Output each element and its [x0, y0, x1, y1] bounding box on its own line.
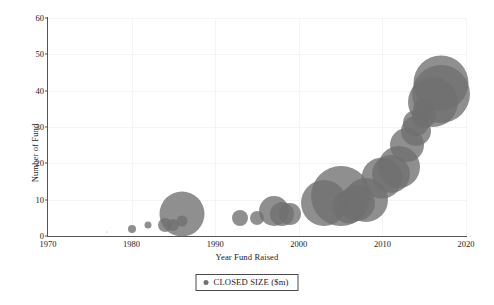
gridline-horizontal — [48, 18, 466, 19]
y-tick-mark — [45, 54, 48, 55]
bubble-data-point — [128, 225, 136, 233]
y-tick-label: 40 — [36, 86, 45, 95]
gridline-vertical — [466, 18, 467, 236]
y-tick-mark — [45, 18, 48, 19]
bubble-data-point — [159, 192, 204, 237]
x-tick-label: 2020 — [458, 240, 475, 249]
gridline-vertical — [215, 18, 216, 236]
bubble-data-point — [145, 222, 152, 229]
gridline-horizontal — [48, 91, 466, 92]
y-tick-mark — [45, 236, 48, 237]
y-tick-mark — [45, 199, 48, 200]
legend: CLOSED SIZE ($m) — [196, 274, 299, 291]
gridline-horizontal — [48, 200, 466, 201]
x-tick-label: 1970 — [40, 240, 57, 249]
y-tick-mark — [45, 90, 48, 91]
bubble-chart: Number of Fund 0102030405060197019801990… — [0, 0, 494, 305]
gridline-vertical — [299, 18, 300, 236]
x-tick-label: 1980 — [123, 240, 140, 249]
y-tick-label: 20 — [36, 159, 45, 168]
x-tick-label: 2000 — [290, 240, 307, 249]
bubble-data-point — [412, 65, 470, 123]
plot-area: 0102030405060197019801990200020102020 — [48, 18, 466, 236]
bubble-data-point — [232, 210, 248, 226]
y-tick-label: 60 — [36, 14, 45, 23]
legend-entry-label: CLOSED SIZE ($m) — [214, 277, 289, 287]
y-tick-mark — [45, 163, 48, 164]
x-tick-label: 2010 — [374, 240, 391, 249]
bubble-data-point — [279, 203, 301, 225]
bubble-data-point — [106, 232, 107, 233]
x-axis-title: Year Fund Raised — [0, 252, 494, 262]
gridline-vertical — [132, 18, 133, 236]
circle-marker-icon — [204, 280, 209, 285]
x-axis-line — [47, 236, 467, 237]
y-axis-title: Number of Fund — [30, 123, 40, 182]
y-tick-mark — [45, 127, 48, 128]
x-tick-label: 1990 — [207, 240, 224, 249]
y-tick-label: 30 — [36, 123, 45, 132]
y-tick-label: 10 — [36, 195, 45, 204]
y-tick-label: 50 — [36, 50, 45, 59]
gridline-horizontal — [48, 54, 466, 55]
